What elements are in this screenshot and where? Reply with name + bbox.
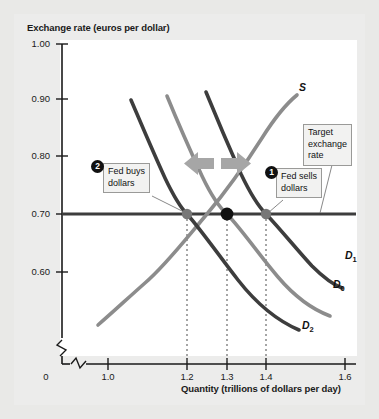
fed-buys-line-2: dollars <box>108 178 145 190</box>
initial-equilibrium-point <box>221 208 234 221</box>
x-tick-label-4: 1.4 <box>251 371 281 382</box>
y-tick-label-5: 0.60 <box>22 266 50 277</box>
target-line-1: Target <box>308 127 347 139</box>
fed-buys-point <box>182 209 192 219</box>
fed-sells-badge: 1 <box>265 166 278 179</box>
target-rate-callout: Target exchange rate <box>303 124 352 166</box>
curve-label-D1-text: D <box>345 249 353 261</box>
curve-label-D0: D0 <box>333 278 345 293</box>
fed-sells-point <box>261 209 271 219</box>
drop-lines <box>187 214 266 364</box>
y-axis-title: Exchange rate (euros per dollar) <box>27 22 170 33</box>
fed-sells-line-1: Fed sells <box>281 171 317 183</box>
target-line-3: rate <box>308 150 347 162</box>
curve-label-D0-sub: 0 <box>341 284 345 293</box>
x-axis <box>62 358 356 370</box>
curve-label-D1: D1 <box>345 249 357 264</box>
curve-label-D0-text: D <box>333 278 341 290</box>
fed-buys-badge: 2 <box>91 160 104 173</box>
x-axis-title: Quantity (trillions of dollars per day) <box>181 383 341 394</box>
origin-label: 0 <box>31 371 61 382</box>
curve-label-S: S <box>299 81 306 93</box>
fed-buys-line-1: Fed buys <box>108 166 145 178</box>
exchange-rate-figure: Exchange rate (euros per dollar) Quantit… <box>0 0 379 419</box>
x-tick-label-5: 1.6 <box>330 371 360 382</box>
x-tick-label-3: 1.3 <box>212 371 242 382</box>
curve-label-D1-sub: 1 <box>353 255 357 264</box>
y-tick-label-4: 0.70 <box>22 208 50 219</box>
x-tick-label-2: 1.2 <box>172 371 202 382</box>
target-line-2: exchange <box>308 139 347 151</box>
y-tick-label-3: 0.80 <box>22 150 50 161</box>
right-arrow-icon <box>221 152 251 175</box>
curve-label-D2-text: D <box>302 319 310 331</box>
chart-graphics <box>0 0 379 419</box>
x-tick-label-1: 1.0 <box>93 371 123 382</box>
fed-buys-callout: Fed buys dollars <box>103 163 150 193</box>
curve-label-D2-sub: 2 <box>310 325 314 334</box>
y-tick-label-1: 1.00 <box>22 38 50 49</box>
fed-sells-callout: Fed sells dollars <box>276 168 322 198</box>
fed-sells-line-2: dollars <box>281 183 317 195</box>
y-axis <box>56 44 68 364</box>
curve-label-D2: D2 <box>302 319 314 334</box>
y-tick-label-2: 0.90 <box>22 93 50 104</box>
